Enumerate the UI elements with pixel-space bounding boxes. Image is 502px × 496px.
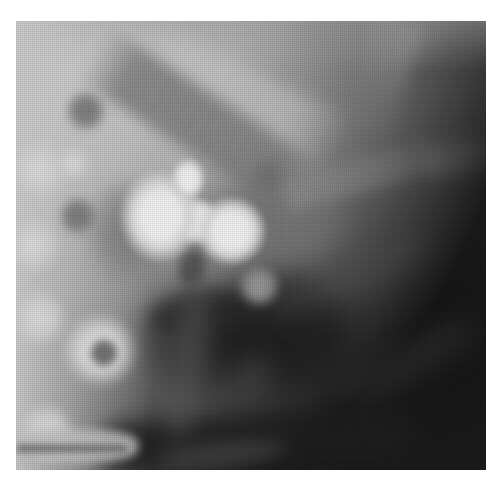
scan-page-background [0, 0, 502, 496]
radiograph-image [16, 21, 486, 470]
film-grain-overlay [16, 21, 486, 470]
